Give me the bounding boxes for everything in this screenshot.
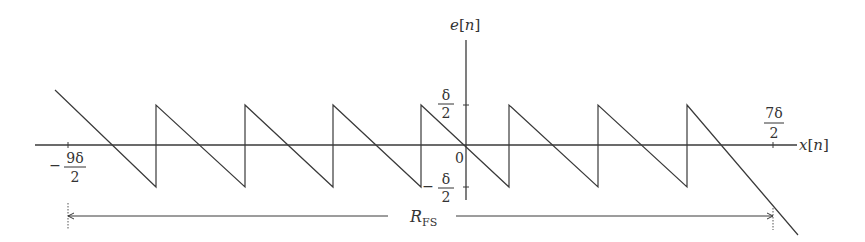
origin-label: 0 <box>455 150 464 166</box>
svg-text:δ: δ <box>442 87 450 103</box>
svg-text:−: − <box>422 178 434 194</box>
range-label: RFS <box>409 207 437 229</box>
svg-text:2: 2 <box>442 105 451 121</box>
svg-text:7δ: 7δ <box>765 105 782 121</box>
svg-text:δ: δ <box>442 171 450 187</box>
sawtooth-error-curve <box>55 90 798 235</box>
x-tick-label-right: 7δ 2 <box>764 105 784 141</box>
y-tick-label-neg: − δ 2 <box>422 171 454 205</box>
y-tick-label-pos: δ 2 <box>438 87 454 121</box>
x-tick-label-left: − 9δ 2 <box>49 150 86 185</box>
svg-text:9δ: 9δ <box>66 150 83 166</box>
svg-text:2: 2 <box>442 189 451 205</box>
svg-text:2: 2 <box>770 125 779 141</box>
quantization-error-diagram: e[n] x[n] 0 δ 2 − δ 2 − 9δ 2 7δ 2 RFS <box>0 0 865 242</box>
x-axis-label: x[n] <box>799 136 829 154</box>
svg-text:−: − <box>49 157 61 173</box>
svg-text:2: 2 <box>71 169 80 185</box>
y-axis-label: e[n] <box>450 16 480 34</box>
